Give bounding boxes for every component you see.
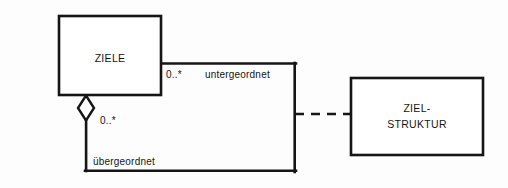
- class-box-ziele[interactable]: ZIELE: [59, 16, 161, 95]
- multiplicity-label-parent: 0..*: [100, 115, 116, 126]
- class-box-zielstruktur[interactable]: ZIEL- STRUKTUR: [351, 78, 483, 155]
- role-label-untergeordnet: untergeordnet: [205, 69, 270, 80]
- uml-diagram-svg: ZIELE ZIEL- STRUKTUR 0..* untergeordnet …: [0, 0, 508, 188]
- aggregation-diamond-icon: [78, 96, 94, 121]
- role-label-uebergeordnet: übergeordnet: [93, 156, 155, 167]
- multiplicity-label-child: 0..*: [166, 69, 182, 80]
- class-box-ziele-label: ZIELE: [95, 52, 126, 64]
- class-box-zielstruktur-label-line1: ZIEL-: [403, 102, 430, 114]
- class-box-zielstruktur-frame: [351, 78, 483, 155]
- uml-diagram-canvas: ZIELE ZIEL- STRUKTUR 0..* untergeordnet …: [0, 0, 508, 188]
- class-box-zielstruktur-label-line2: STRUKTUR: [387, 118, 447, 130]
